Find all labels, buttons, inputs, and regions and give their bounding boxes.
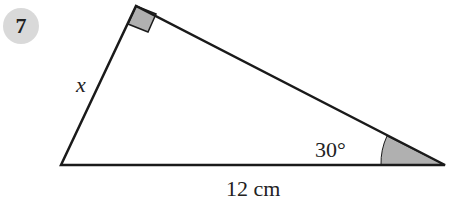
side-x-label: x [76, 72, 86, 98]
base-length-label: 12 cm [226, 176, 280, 202]
angle-label: 30° [315, 137, 346, 163]
